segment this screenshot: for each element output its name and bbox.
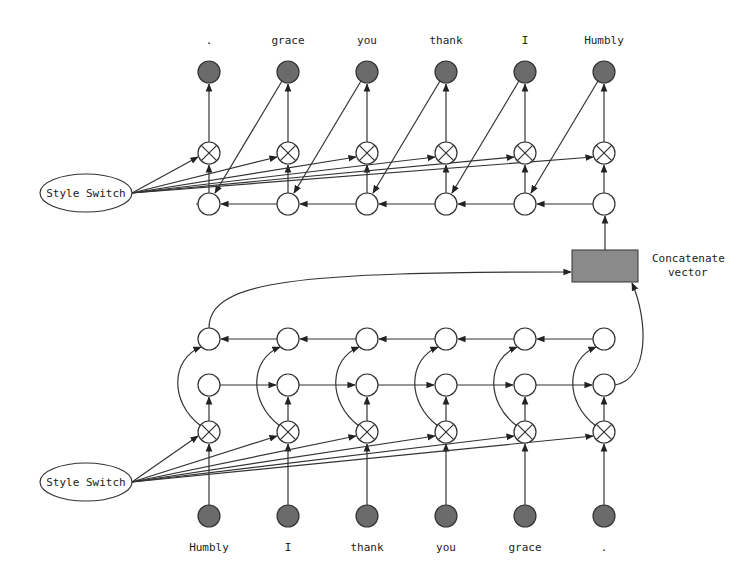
decoder-hidden-node [277,193,299,215]
multiply-gate-icon [593,142,615,164]
output-token-label: . [206,34,213,47]
input-token-node [198,505,220,527]
nodes [198,61,615,527]
output-token-node [593,61,615,83]
input-token-node [593,505,615,527]
output-token-node [435,61,457,83]
encoder-backward-node [277,328,299,350]
concatenate-vector-box: Concatenate vector [572,250,725,282]
multiply-gate-icon [198,142,220,164]
encoder-forward-node [277,374,299,396]
decoder-hidden-node [435,193,457,215]
input-token-label: grace [508,541,541,554]
encoder-forward-node [593,374,615,396]
multiply-gate-icon [514,421,536,443]
decoder-hidden-node [593,193,615,215]
encoder-backward-node [435,328,457,350]
output-token-node [514,61,536,83]
input-token-node [435,505,457,527]
decoder-style-switch: Style Switch [40,174,132,212]
style-switch-label: Style Switch [46,187,125,200]
input-token-label: you [436,541,456,554]
multiply-gate-icon [435,142,457,164]
encoder-backward-node [514,328,536,350]
encoder-input-labels: Humbly I thank you grace . [189,541,607,554]
multiply-gate-icon [593,421,615,443]
output-token-label: you [357,34,377,47]
input-token-label: Humbly [189,541,229,554]
input-token-node [356,505,378,527]
input-token-label: thank [350,541,383,554]
output-token-label: I [522,34,529,47]
multiply-gate-icon [198,421,220,443]
decoder-output-labels: . grace you thank I Humbly [206,34,625,47]
multiply-gate-icon [277,142,299,164]
output-token-label: Humbly [584,34,624,47]
encoder-backward-node [593,328,615,350]
output-token-node [198,61,220,83]
style-switch-label: Style Switch [46,476,125,489]
input-token-node [277,505,299,527]
diagram-canvas: . grace you thank I Humbly Humbly I than… [0,0,753,583]
encoder-style-switch: Style Switch [40,463,132,501]
encoder-forward-node [198,374,220,396]
multiply-gate-icon [356,421,378,443]
decoder-hidden-node [198,193,220,215]
encoder-backward-node [198,328,220,350]
multiply-gate-icon [514,142,536,164]
encoder-forward-node [356,374,378,396]
decoder-hidden-node [514,193,536,215]
encoder-forward-node [514,374,536,396]
multiply-gate-icon [356,142,378,164]
multiply-gate-icon [435,421,457,443]
encoder-backward-node [356,328,378,350]
concat-label-line2: vector [668,266,708,279]
output-token-label: thank [429,34,462,47]
decoder-hidden-node [356,193,378,215]
output-token-node [277,61,299,83]
input-token-label: I [285,541,292,554]
output-token-node [356,61,378,83]
encoder-forward-node [435,374,457,396]
multiply-gate-icon [277,421,299,443]
concat-label-line1: Concatenate [652,252,725,265]
output-token-label: grace [271,34,304,47]
input-token-label: . [601,541,608,554]
input-token-node [514,505,536,527]
